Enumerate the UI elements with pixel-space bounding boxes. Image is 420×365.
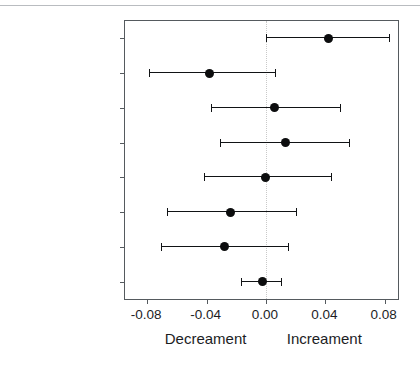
ci-cap-low: [167, 208, 168, 216]
data-point-marker: [261, 173, 270, 182]
x-axis-tick: [266, 299, 267, 304]
ci-cap-high: [281, 278, 282, 286]
x-axis-caption-decreament: Decreament: [165, 330, 247, 347]
ci-cap-low: [266, 34, 267, 42]
x-axis-tick-label: 0.04: [311, 307, 337, 322]
data-point-marker: [281, 138, 290, 147]
ci-cap-high: [340, 104, 341, 112]
ci-cap-low: [149, 69, 150, 77]
x-axis-tick-label: 0.00: [252, 307, 278, 322]
x-axis-tick-label: -0.08: [131, 307, 162, 322]
ci-cap-low: [241, 278, 242, 286]
y-axis-tick: [120, 177, 125, 178]
y-axis-tick: [120, 73, 125, 74]
y-axis-tick: [120, 38, 125, 39]
y-axis-tick: [120, 212, 125, 213]
data-point-marker: [205, 69, 214, 78]
ci-cap-high: [288, 243, 289, 251]
forest-plot-frame: DorsalCaudalAnalLeft pelvicRight pelvicL…: [124, 20, 399, 300]
x-axis-tick-label: 0.08: [371, 307, 397, 322]
ci-cap-low: [161, 243, 162, 251]
x-axis-tick: [325, 299, 326, 304]
data-point-marker: [270, 103, 279, 112]
y-axis-tick: [120, 108, 125, 109]
data-point-marker: [220, 242, 229, 251]
plot-area: [125, 21, 398, 299]
ci-cap-low: [220, 139, 221, 147]
y-axis-tick: [120, 143, 125, 144]
ci-cap-low: [204, 173, 205, 181]
ci-cap-high: [331, 173, 332, 181]
data-point-marker: [324, 34, 333, 43]
x-axis-tick: [207, 299, 208, 304]
ci-cap-high: [296, 208, 297, 216]
y-axis-tick: [120, 247, 125, 248]
x-axis-caption-increament: Increament: [287, 330, 362, 347]
ci-cap-high: [349, 139, 350, 147]
ci-cap-low: [211, 104, 212, 112]
x-axis-tick: [385, 299, 386, 304]
ci-cap-high: [389, 34, 390, 42]
data-point-marker: [226, 208, 235, 217]
zero-reference-line: [266, 21, 268, 299]
page-rule: [0, 5, 420, 6]
x-axis-tick: [147, 299, 148, 304]
x-axis-tick-label: -0.04: [190, 307, 221, 322]
ci-cap-high: [275, 69, 276, 77]
y-axis-tick: [120, 282, 125, 283]
